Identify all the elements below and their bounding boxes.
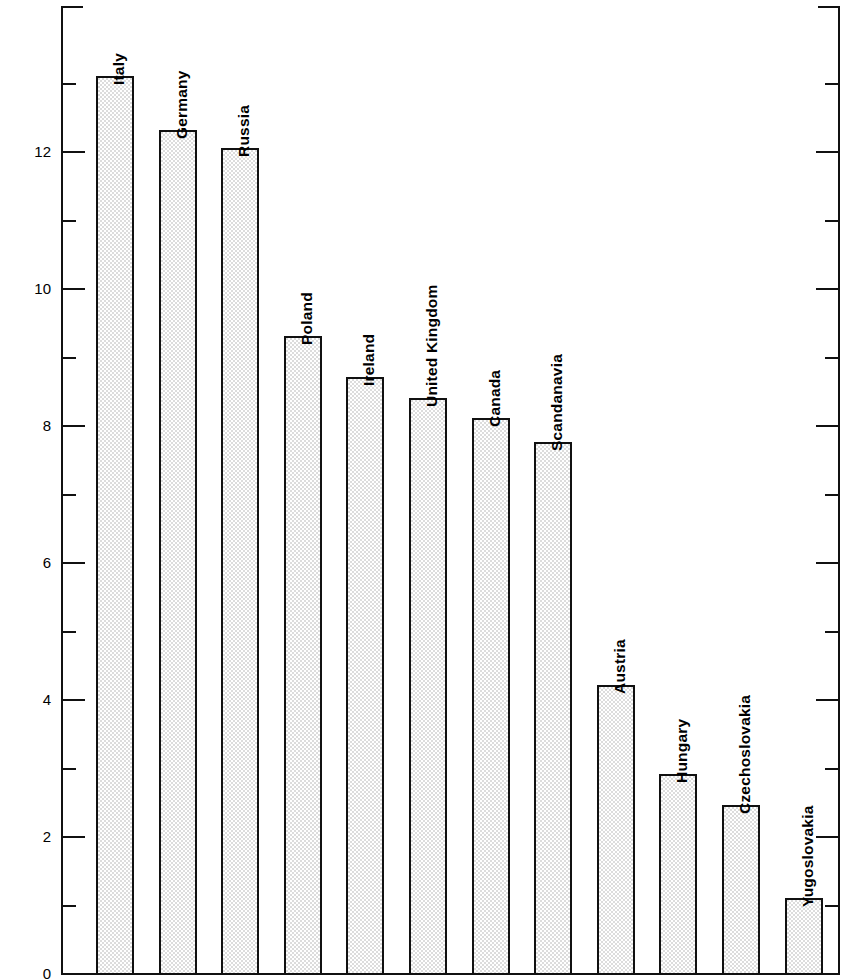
y-tick-minor	[63, 631, 76, 633]
y-tick-minor	[63, 494, 76, 496]
y-tick-major	[63, 562, 85, 564]
bar-label: Canada	[486, 370, 504, 427]
y-tick-minor-right	[825, 357, 838, 359]
y-tick-major-right	[816, 699, 838, 701]
bar-czechoslovakia[interactable]	[722, 805, 760, 975]
y-tick-minor	[63, 357, 76, 359]
bar-italy[interactable]	[96, 76, 134, 975]
y-tick-minor-right	[825, 83, 838, 85]
y-tick-label: 2	[9, 828, 51, 845]
y-tick-label: 12	[9, 143, 51, 160]
bar-russia[interactable]	[221, 148, 259, 975]
bar-germany[interactable]	[159, 130, 197, 975]
axis-top-cap	[61, 6, 83, 8]
bar-austria[interactable]	[597, 685, 635, 975]
bar-label: Hungary	[673, 719, 691, 783]
y-tick-label: 6	[9, 554, 51, 571]
bar-label: Scandanavia	[548, 354, 566, 451]
bar-label: Germany	[173, 71, 191, 140]
y-tick-major	[63, 425, 85, 427]
bar-poland[interactable]	[284, 336, 322, 975]
y-tick-label: 0	[9, 965, 51, 980]
y-tick-major-right	[816, 562, 838, 564]
bar-label: Czechoslovakia	[736, 695, 754, 814]
y-tick-major-right	[816, 288, 838, 290]
y-tick-major	[63, 151, 85, 153]
y-tick-minor-right	[825, 220, 838, 222]
y-tick-major	[63, 973, 85, 975]
bar-label: Russia	[235, 105, 253, 157]
bar-label: Austria	[611, 639, 629, 694]
bar-united-kingdom[interactable]	[409, 398, 447, 975]
bar-label: Poland	[298, 292, 316, 345]
y-tick-label: 8	[9, 417, 51, 434]
y-tick-major	[63, 836, 85, 838]
bar-hungary[interactable]	[659, 774, 697, 975]
bar-label: Ireland	[360, 334, 378, 386]
bar-chart: Percent of total foreign−born urban popu…	[0, 0, 859, 980]
y-tick-minor-right	[825, 905, 838, 907]
y-tick-minor	[63, 905, 76, 907]
y-tick-minor	[63, 768, 76, 770]
y-tick-label: 4	[9, 691, 51, 708]
bar-label: United Kingdom	[423, 284, 441, 406]
y-tick-major	[63, 288, 85, 290]
y-axis-mirror-line	[838, 6, 840, 975]
bar-yugoslovakia[interactable]	[785, 898, 823, 975]
y-tick-major-right	[816, 151, 838, 153]
bar-label: Yugoslovakia	[799, 805, 817, 906]
axis-top-cap	[818, 6, 840, 8]
y-tick-major-right	[816, 836, 838, 838]
y-tick-label: 10	[9, 280, 51, 297]
y-tick-major	[63, 699, 85, 701]
bar-canada[interactable]	[472, 418, 510, 975]
y-tick-minor-right	[825, 494, 838, 496]
bar-scandanavia[interactable]	[534, 442, 572, 975]
bar-label: Italy	[110, 53, 128, 85]
y-tick-minor	[63, 83, 76, 85]
y-tick-minor	[63, 220, 76, 222]
y-tick-minor-right	[825, 631, 838, 633]
bar-ireland[interactable]	[346, 377, 384, 975]
y-tick-minor-right	[825, 768, 838, 770]
y-tick-major-right	[816, 425, 838, 427]
